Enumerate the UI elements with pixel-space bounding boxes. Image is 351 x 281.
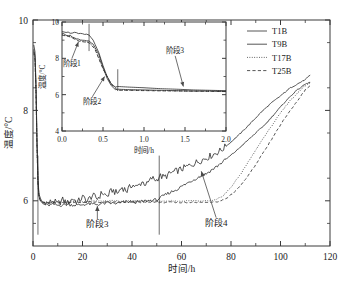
inset-x-tick-label: 1.5: [180, 135, 190, 144]
x-tick-label: 60: [177, 252, 187, 262]
annotation-label: 阶段3: [86, 218, 109, 229]
x-tick-label: 40: [127, 252, 137, 262]
inset-x-axis-label: 时间/h: [134, 145, 154, 155]
inset-y-tick-label: 6: [55, 91, 59, 100]
inset-x-tick-label: 2.0: [221, 135, 231, 144]
x-tick-label: 0: [31, 252, 36, 262]
inset-y-tick-label: 8: [55, 54, 59, 63]
x-tick-label: 80: [226, 252, 236, 262]
legend-label-T25B: T25B: [272, 66, 292, 76]
y-tick-label: 6: [23, 196, 28, 206]
legend-label-T1B: T1B: [272, 26, 287, 36]
inset-annotation-label: 阶段3: [166, 45, 184, 55]
annotation-label: 阶段4: [205, 217, 228, 228]
x-axis-label: 时间/h: [168, 263, 196, 274]
inset-x-tick-label: 1.0: [139, 135, 149, 144]
x-tick-label: 100: [273, 252, 288, 262]
inset-axes-frame: [62, 22, 226, 131]
inset-x-tick-label: 0.0: [57, 135, 67, 144]
inset-x-tick-label: 0.5: [98, 135, 108, 144]
y-axis-label: 温度/°C: [3, 117, 14, 150]
inset-annotation-label: 阶段1: [63, 58, 81, 68]
y-tick-label: 10: [19, 16, 29, 26]
legend-label-T17B: T17B: [272, 53, 292, 63]
x-tick-label: 20: [78, 252, 88, 262]
inset-y-tick-label: 4: [55, 127, 59, 136]
inset-y-axis-label: 温度/°C: [37, 64, 47, 88]
y-tick-label: 8: [23, 106, 28, 116]
inset-annotation-label: 阶段2: [83, 96, 101, 106]
chart-canvas: 0204060801001206810时间/h温度/°C阶段3阶段4T1BT9B…: [0, 0, 351, 281]
chart-figure: 0204060801001206810时间/h温度/°C阶段3阶段4T1BT9B…: [0, 0, 351, 281]
x-tick-label: 120: [323, 252, 338, 262]
inset-y-tick-label: 10: [52, 18, 60, 27]
legend-label-T9B: T9B: [272, 39, 287, 49]
